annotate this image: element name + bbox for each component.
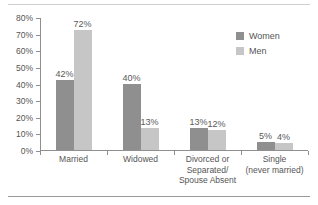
y-tick-label-70: 70% — [16, 30, 33, 40]
y-tick-label-80: 80% — [16, 13, 33, 23]
category-label: Single(never married) — [241, 154, 308, 175]
bar-value-label: 5% — [259, 131, 272, 141]
category-label-line: Divorced or — [174, 154, 241, 165]
chart-figure: 0%10%20%30%40%50%60%70%80% 42%72%40%13%1… — [0, 0, 318, 205]
chart-legend: Women Men — [236, 31, 280, 61]
y-tick-20 — [36, 118, 40, 119]
bar-group: 13%12% — [190, 18, 226, 150]
y-tick-50 — [36, 68, 40, 69]
category-label-line: Spouse Absent — [174, 175, 241, 186]
bar-women — [56, 80, 74, 150]
legend-label-men: Men — [249, 46, 267, 56]
y-tick-label-50: 50% — [16, 63, 33, 73]
x-tick — [308, 151, 309, 155]
category-label-line: Widowed — [107, 154, 174, 165]
y-tick-label-10: 10% — [16, 129, 33, 139]
bar-women — [257, 142, 275, 150]
bar-value-label: 42% — [55, 69, 73, 79]
y-tick-label-60: 60% — [16, 46, 33, 56]
y-tick-60 — [36, 51, 40, 52]
bottom-divider — [8, 196, 310, 197]
bar-value-label: 13% — [189, 117, 207, 127]
y-tick-40 — [36, 85, 40, 86]
bar-men — [208, 130, 226, 150]
legend-item-women: Women — [236, 31, 280, 41]
y-tick-80 — [36, 18, 40, 19]
bar-value-label: 13% — [140, 117, 158, 127]
legend-item-men: Men — [236, 46, 280, 56]
legend-swatch-women — [236, 32, 244, 40]
y-tick-label-30: 30% — [16, 96, 33, 106]
bar-value-label: 4% — [277, 132, 290, 142]
bar-group: 40%13% — [123, 18, 159, 150]
bar-value-label: 72% — [73, 19, 91, 29]
bar-men — [74, 30, 92, 150]
category-label-line: (never married) — [241, 165, 308, 176]
category-label-line: Separated/ — [174, 165, 241, 176]
category-label: Widowed — [107, 154, 174, 165]
bar-women — [190, 128, 208, 150]
y-tick-10 — [36, 134, 40, 135]
bar-women — [123, 84, 141, 151]
y-tick-30 — [36, 101, 40, 102]
category-label: Divorced orSeparated/Spouse Absent — [174, 154, 241, 186]
bar-group: 42%72% — [56, 18, 92, 150]
category-label: Married — [40, 154, 107, 165]
legend-label-women: Women — [249, 31, 280, 41]
y-tick-label-20: 20% — [16, 113, 33, 123]
category-label-line: Married — [40, 154, 107, 165]
legend-swatch-men — [236, 47, 244, 55]
bar-men — [275, 143, 293, 150]
y-tick-label-40: 40% — [16, 80, 33, 90]
bar-men — [141, 128, 159, 150]
y-axis-line — [40, 18, 41, 151]
bar-value-label: 40% — [122, 73, 140, 83]
bar-value-label: 12% — [207, 119, 225, 129]
y-tick-label-0: 0% — [21, 146, 33, 156]
category-label-line: Single — [241, 154, 308, 165]
y-tick-70 — [36, 35, 40, 36]
top-divider — [8, 4, 310, 5]
